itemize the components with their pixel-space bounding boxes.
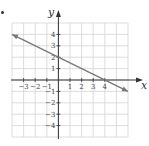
x-tick-label: 2 [79, 83, 83, 91]
x-tick-label: −2 [30, 83, 40, 91]
chart: −3−2−112344321−1−2−3−4 x y [0, 0, 149, 146]
y-tick-label: 1 [51, 65, 55, 73]
x-tick-label: −3 [18, 83, 28, 91]
x-tick-label: 4 [103, 83, 108, 91]
y-axis-label: y [47, 6, 55, 19]
x-tick-label: 1 [68, 83, 72, 91]
y-axis-arrow-icon [56, 10, 61, 17]
y-tick-label: −1 [45, 88, 55, 96]
axes [11, 10, 143, 139]
y-tick-label: −2 [45, 99, 55, 107]
y-tick-label: −4 [45, 122, 56, 130]
y-tick-label: 3 [51, 42, 55, 50]
y-tick-label: −3 [45, 111, 55, 119]
x-tick-label: 3 [91, 83, 95, 91]
y-tick-label: 4 [51, 31, 56, 39]
x-axis-label: x [141, 79, 148, 92]
